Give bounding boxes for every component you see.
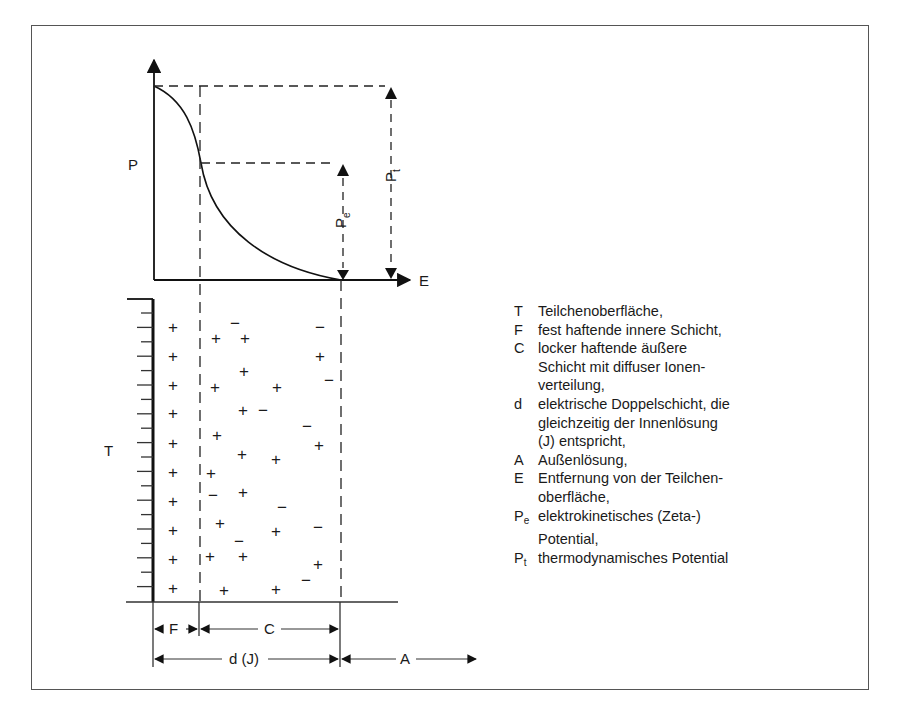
pe-label: P e <box>332 212 352 228</box>
positive-charge: + <box>205 547 215 566</box>
double-layer-schematic: T ++++++++++−−++++−+++−−+++++−+−++−−+++−… <box>104 299 398 602</box>
legend-text: Teilchenoberfläche, <box>538 302 663 321</box>
wall-label: T <box>104 442 113 459</box>
legend-row: AAußenlösung, <box>506 451 730 470</box>
positive-charge: + <box>240 329 250 348</box>
positive-charge: + <box>219 581 229 600</box>
negative-charge: − <box>302 417 312 436</box>
legend-key <box>506 358 538 377</box>
positive-charge: + <box>271 522 281 541</box>
legend-row: gleichzeitig der Innenlösung <box>506 414 730 433</box>
legend-text: thermodynamisches Potential <box>538 549 728 573</box>
svg-text:P: P <box>332 218 349 228</box>
positive-charge: + <box>168 318 178 337</box>
dimension-c-label: C <box>264 620 275 637</box>
positive-charge: + <box>168 347 178 366</box>
legend-key: A <box>506 451 538 470</box>
surface-ticks <box>137 313 153 587</box>
dimension-a-label: A <box>400 650 410 667</box>
positive-charge: + <box>215 514 225 533</box>
legend-key <box>506 530 538 549</box>
negative-charge: − <box>301 571 311 590</box>
legend-row: EEntfernung von der Teilchen- <box>506 469 730 488</box>
positive-charge: + <box>168 404 178 423</box>
dimension-annotations: F C d (J) A <box>153 602 476 667</box>
positive-charge: + <box>237 445 247 464</box>
negative-charge: − <box>258 401 268 420</box>
legend-row: Ptthermodynamisches Potential <box>506 549 730 573</box>
negative-charge: − <box>324 371 334 390</box>
positive-charge: + <box>238 401 248 420</box>
positive-charge: + <box>315 347 325 366</box>
x-axis-label: E <box>419 272 429 289</box>
legend-key: Pt <box>506 549 538 573</box>
positive-charge: + <box>271 450 281 469</box>
negative-charge: − <box>208 486 218 505</box>
legend-row: Peelektrokinetisches (Zeta-) <box>506 507 730 531</box>
legend-key: E <box>506 469 538 488</box>
dimension-f-label: F <box>169 620 178 637</box>
legend-key: F <box>506 321 538 340</box>
legend-key <box>506 414 538 433</box>
legend-text: oberfläche, <box>538 488 610 507</box>
legend-key: d <box>506 395 538 414</box>
negative-charge: − <box>230 314 240 333</box>
legend-key <box>506 432 538 451</box>
legend-row: verteilung, <box>506 376 730 395</box>
legend: TTeilchenoberfläche,Ffest haftende inner… <box>506 302 730 572</box>
legend-row: Schicht mit diffuser Ionen- <box>506 358 730 377</box>
potential-curve <box>154 86 341 280</box>
legend-text: Schicht mit diffuser Ionen- <box>538 358 705 377</box>
legend-key <box>506 376 538 395</box>
positive-charge: + <box>168 434 178 453</box>
legend-text: elektrokinetisches (Zeta-) <box>538 507 701 531</box>
legend-text: locker haftende äußere <box>538 339 687 358</box>
positive-charge: + <box>271 580 281 599</box>
legend-row: Ffest haftende innere Schicht, <box>506 321 730 340</box>
legend-row: delektrische Doppelschicht, die <box>506 395 730 414</box>
positive-charge: + <box>212 426 222 445</box>
legend-row: Clocker haftende äußere <box>506 339 730 358</box>
positive-charge: + <box>168 579 178 598</box>
legend-row: TTeilchenoberfläche, <box>506 302 730 321</box>
svg-text:t: t <box>391 169 402 172</box>
ion-charges: ++++++++++−−++++−+++−−+++++−+−++−−+++−++ <box>168 314 334 600</box>
positive-charge: + <box>168 463 178 482</box>
positive-charge: + <box>168 521 178 540</box>
positive-charge: + <box>168 550 178 569</box>
positive-charge: + <box>238 547 248 566</box>
legend-row: oberfläche, <box>506 488 730 507</box>
positive-charge: + <box>168 492 178 511</box>
negative-charge: − <box>277 498 287 517</box>
svg-text:e: e <box>341 212 352 218</box>
dimension-d-label: d (J) <box>229 650 259 667</box>
legend-key <box>506 488 538 507</box>
legend-text: Entfernung von der Teilchen- <box>538 469 723 488</box>
legend-row: Potential, <box>506 530 730 549</box>
legend-text: (J) entspricht, <box>538 432 626 451</box>
positive-charge: + <box>313 555 323 574</box>
legend-text: Außenlösung, <box>538 451 627 470</box>
pt-label: P t <box>382 169 402 182</box>
legend-text: elektrische Doppelschicht, die <box>538 395 730 414</box>
positive-charge: + <box>211 329 221 348</box>
negative-charge: − <box>313 518 323 537</box>
positive-charge: + <box>206 464 216 483</box>
legend-row: (J) entspricht, <box>506 432 730 451</box>
positive-charge: + <box>272 378 282 397</box>
positive-charge: + <box>168 376 178 395</box>
negative-charge: − <box>315 318 325 337</box>
legend-text: gleichzeitig der Innenlösung <box>538 414 718 433</box>
positive-charge: + <box>239 362 249 381</box>
svg-text:P: P <box>382 172 399 182</box>
legend-key: Pe <box>506 507 538 531</box>
legend-text: Potential, <box>538 530 598 549</box>
legend-key: C <box>506 339 538 358</box>
y-axis-label: P <box>128 156 138 173</box>
double-layer-diagram: P E P e P t T ++++++++++−−++++−+++−−++++… <box>0 0 901 707</box>
positive-charge: + <box>238 483 248 502</box>
positive-charge: + <box>210 378 220 397</box>
legend-text: verteilung, <box>538 376 605 395</box>
legend-key: T <box>506 302 538 321</box>
positive-charge: + <box>314 436 324 455</box>
